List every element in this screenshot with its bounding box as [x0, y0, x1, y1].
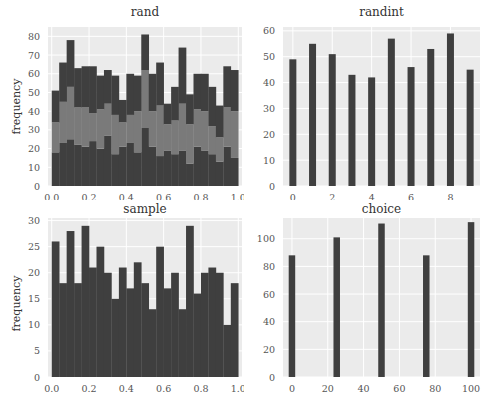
histogram-bar [59, 283, 67, 377]
histogram-bar [97, 76, 105, 110]
histogram-bar [208, 87, 216, 126]
y-tick-label: 25 [28, 241, 40, 252]
histogram-bar [164, 288, 172, 377]
histogram-bar [216, 162, 224, 186]
histogram-bar [74, 68, 82, 107]
x-tick-label: 0.8 [193, 192, 208, 200]
y-tick-label: 30 [28, 124, 40, 135]
plot-area: 010203040506002468 [244, 0, 488, 200]
histogram-bar [149, 147, 157, 186]
histogram-bar [179, 104, 187, 151]
histogram-bar [119, 100, 127, 122]
histogram-bar [104, 273, 112, 377]
histogram-bar [52, 122, 60, 152]
histogram-bar [156, 247, 164, 377]
histogram-bar [194, 147, 202, 186]
histogram-bar [149, 111, 157, 147]
chart-rand: rand frequency 010203040506070800.00.20.… [0, 0, 244, 200]
histogram-bar [231, 111, 239, 158]
histogram-bar [134, 76, 142, 112]
bar [388, 39, 395, 186]
histogram-bar [216, 137, 224, 161]
histogram-bar [67, 231, 75, 377]
histogram-bar [111, 154, 119, 186]
histogram-bar [216, 273, 224, 377]
x-tick-label: 1.0 [231, 383, 244, 394]
bar [427, 49, 434, 186]
x-tick-label: 0.6 [156, 383, 171, 394]
histogram-bar [82, 107, 90, 146]
y-tick-label: 0 [34, 372, 40, 383]
histogram-bar [126, 288, 134, 377]
histogram-bar [201, 111, 209, 150]
y-tick-label: 0 [269, 181, 275, 192]
histogram-bar [119, 268, 127, 377]
bar [333, 237, 340, 377]
histogram-bar [231, 158, 239, 186]
histogram-bar [179, 309, 187, 377]
x-tick-label: 0 [289, 383, 295, 394]
histogram-bar [223, 325, 231, 377]
y-tick-label: 60 [263, 25, 275, 36]
y-tick-label: 10 [263, 155, 275, 166]
histogram-bar [97, 149, 105, 186]
y-tick-label: 20 [28, 143, 40, 154]
y-tick-label: 30 [263, 103, 275, 114]
bar [368, 77, 375, 186]
y-tick-label: 20 [263, 344, 275, 355]
histogram-bar [111, 299, 119, 377]
histogram-bar [141, 128, 149, 186]
histogram-bar [201, 150, 209, 186]
histogram-bar [74, 107, 82, 144]
x-tick-label: 0.8 [193, 383, 208, 394]
histogram-bar [208, 268, 216, 377]
y-tick-label: 50 [28, 87, 40, 98]
x-tick-label: 0.2 [81, 192, 96, 200]
chart-sample: sample frequency 0510152025300.00.20.40.… [0, 200, 244, 405]
histogram-bar [74, 145, 82, 186]
histogram-bar [119, 147, 127, 186]
bar [289, 59, 296, 186]
y-tick-label: 100 [257, 233, 275, 244]
y-tick-label: 20 [263, 129, 275, 140]
x-tick-label: 6 [408, 192, 414, 200]
histogram-bar [179, 150, 187, 186]
histogram-bar [97, 247, 105, 377]
bar [467, 70, 474, 186]
histogram-bar [186, 164, 194, 186]
y-tick-label: 60 [263, 289, 275, 300]
histogram-bar [186, 94, 194, 124]
histogram-bar [52, 91, 60, 123]
histogram-bar [111, 115, 119, 154]
histogram-bar [171, 154, 179, 186]
histogram-bar [134, 262, 142, 377]
histogram-bar [201, 74, 209, 111]
bar [423, 255, 430, 377]
histogram-bar [126, 74, 134, 115]
histogram-bar [194, 294, 202, 377]
plot-area: 0510152025300.00.20.40.60.81.0 [0, 200, 244, 405]
y-tick-label: 80 [28, 31, 40, 42]
y-tick-label: 40 [263, 316, 275, 327]
histogram-bar [104, 70, 112, 104]
plot-area: 010203040506070800.00.20.40.60.81.0 [0, 0, 244, 200]
histogram-bar [52, 152, 60, 186]
histogram-bar [201, 273, 209, 377]
histogram-bar [164, 124, 172, 150]
histogram-bar [134, 111, 142, 152]
histogram-bar [164, 150, 172, 186]
histogram-bar [223, 107, 231, 146]
chart-choice: choice 020406080100020406080100 [244, 200, 488, 405]
y-tick-label: 15 [28, 293, 40, 304]
bar [378, 224, 385, 377]
bar [329, 54, 336, 186]
y-tick-label: 50 [263, 51, 275, 62]
x-tick-label: 80 [429, 383, 441, 394]
histogram-bar [194, 109, 202, 146]
histogram-bar [74, 283, 82, 377]
histogram-bar [52, 241, 60, 377]
histogram-bar [171, 273, 179, 377]
histogram-bar [164, 104, 172, 125]
histogram-bar [104, 104, 112, 136]
x-tick-label: 4 [369, 192, 375, 200]
